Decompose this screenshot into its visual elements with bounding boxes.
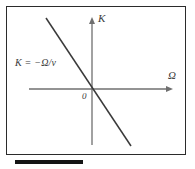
dispersion-line (46, 18, 131, 146)
equation-annotation: K = −Ω/v (15, 57, 56, 68)
omega-axis (29, 86, 173, 92)
k-axis (89, 17, 95, 145)
caption-rule (15, 160, 83, 164)
k-axis-label: K (98, 13, 105, 24)
k-axis-arrowhead (89, 17, 95, 24)
omega-axis-label: Ω (168, 70, 176, 81)
figure-container: K Ω 0 K = −Ω/v (0, 0, 195, 169)
origin-label: 0 (82, 92, 87, 101)
plot-canvas (0, 0, 195, 169)
omega-axis-arrowhead (166, 86, 173, 92)
